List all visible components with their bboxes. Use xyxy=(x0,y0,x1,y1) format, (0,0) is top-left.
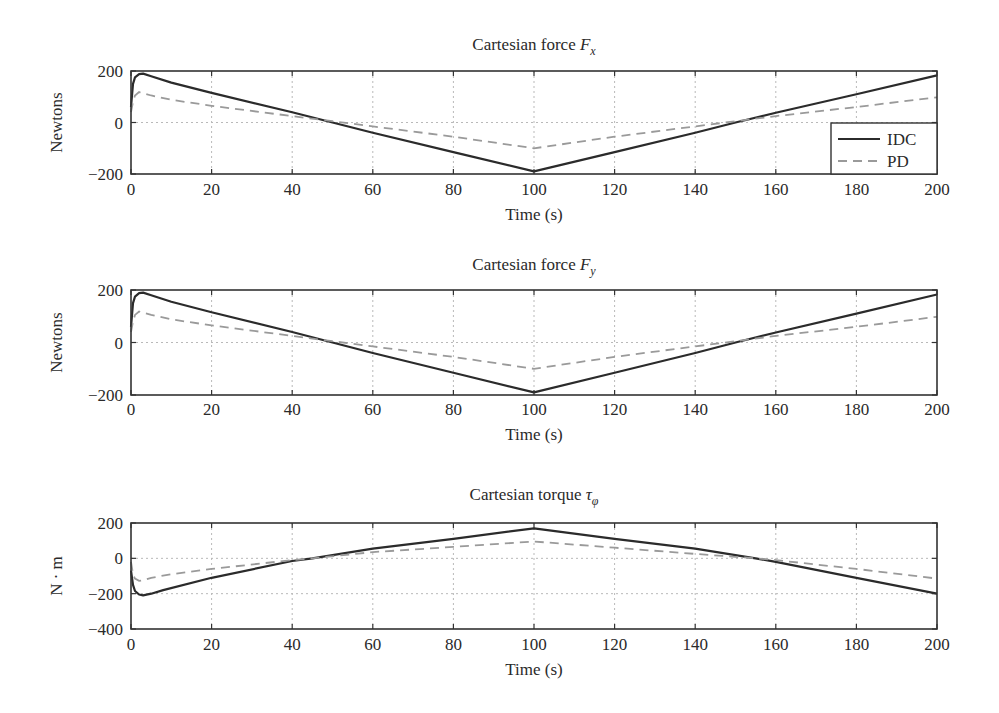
figure-canvas: 020406080100120140160180200−2000200Carte… xyxy=(0,0,999,713)
y-axis-label: Newtons xyxy=(47,312,66,372)
y-tick-label: 200 xyxy=(98,62,124,81)
x-tick-label: 100 xyxy=(521,180,547,199)
x-tick-label: 0 xyxy=(127,635,136,654)
x-tick-label: 0 xyxy=(127,400,136,419)
legend: IDCPD xyxy=(831,123,937,174)
x-tick-label: 180 xyxy=(844,400,870,419)
x-tick-label: 100 xyxy=(521,635,547,654)
x-tick-label: 80 xyxy=(445,635,462,654)
x-tick-label: 140 xyxy=(682,180,708,199)
x-tick-label: 60 xyxy=(364,180,381,199)
x-tick-label: 40 xyxy=(284,180,301,199)
legend-label-idc: IDC xyxy=(887,130,916,149)
x-tick-label: 160 xyxy=(763,180,789,199)
x-tick-label: 120 xyxy=(602,180,628,199)
subplot-title: Cartesian force Fy xyxy=(472,255,596,278)
x-tick-label: 100 xyxy=(521,400,547,419)
x-tick-label: 200 xyxy=(924,180,950,199)
x-tick-label: 200 xyxy=(924,635,950,654)
x-tick-label: 40 xyxy=(284,635,301,654)
x-tick-label: 40 xyxy=(284,400,301,419)
y-axis-label: N · m xyxy=(47,556,66,596)
x-axis-label: Time (s) xyxy=(505,660,562,679)
x-tick-label: 180 xyxy=(844,635,870,654)
legend-label-pd: PD xyxy=(887,152,909,171)
x-tick-label: 200 xyxy=(924,400,950,419)
y-tick-label: −200 xyxy=(88,585,123,604)
y-axis-label: Newtons xyxy=(47,92,66,152)
x-tick-label: 160 xyxy=(763,400,789,419)
y-tick-label: 0 xyxy=(115,549,124,568)
subplot-2: 020406080100120140160180200−2000200Carte… xyxy=(47,255,950,444)
series-pd-line xyxy=(131,92,937,148)
x-tick-label: 160 xyxy=(763,635,789,654)
grid xyxy=(131,71,937,174)
y-tick-label: −200 xyxy=(88,165,123,184)
x-tick-label: 20 xyxy=(203,635,220,654)
x-tick-label: 0 xyxy=(127,180,136,199)
x-tick-label: 20 xyxy=(203,400,220,419)
x-tick-label: 80 xyxy=(445,400,462,419)
x-axis-label: Time (s) xyxy=(505,205,562,224)
y-tick-label: −200 xyxy=(88,386,123,405)
x-tick-label: 140 xyxy=(682,400,708,419)
x-tick-label: 120 xyxy=(602,400,628,419)
subplot-1: 020406080100120140160180200−2000200Carte… xyxy=(47,35,950,224)
y-tick-label: 0 xyxy=(115,114,124,133)
subplot-title: Cartesian force Fx xyxy=(472,35,596,58)
subplot-3: 020406080100120140160180200−400−2000200C… xyxy=(47,485,950,679)
x-tick-label: 60 xyxy=(364,400,381,419)
y-tick-label: 200 xyxy=(98,514,124,533)
x-tick-label: 180 xyxy=(844,180,870,199)
y-tick-label: 200 xyxy=(98,281,124,300)
grid xyxy=(131,290,937,395)
x-tick-label: 20 xyxy=(203,180,220,199)
y-tick-label: 0 xyxy=(115,334,124,353)
x-tick-label: 80 xyxy=(445,180,462,199)
x-tick-label: 140 xyxy=(682,635,708,654)
y-tick-label: −400 xyxy=(88,620,123,639)
grid xyxy=(131,523,937,629)
x-axis-label: Time (s) xyxy=(505,425,562,444)
x-tick-label: 60 xyxy=(364,635,381,654)
subplot-title: Cartesian torque τφ xyxy=(470,485,599,508)
x-tick-label: 120 xyxy=(602,635,628,654)
